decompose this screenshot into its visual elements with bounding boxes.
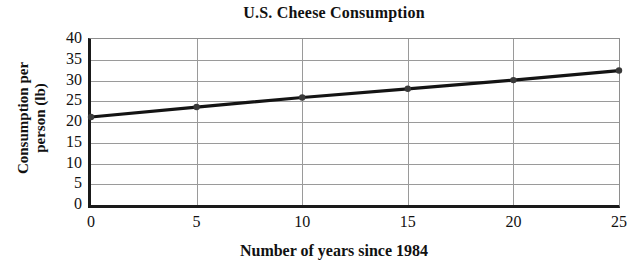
data-point-marker [510, 77, 516, 83]
data-point-marker [193, 104, 199, 110]
x-axis-title: Number of years since 1984 [0, 242, 632, 260]
data-point-marker [299, 94, 305, 100]
y-axis-title-line2: person (lb) [32, 62, 49, 174]
data-point-marker [616, 67, 622, 73]
data-point-marker [88, 114, 94, 120]
x-axis-tick-label: 0 [71, 213, 111, 231]
y-axis-tick-label: 30 [54, 71, 82, 89]
x-axis-tick-label: 20 [493, 213, 533, 231]
y-axis-tick-label: 35 [54, 50, 82, 68]
y-axis-tick-label: 15 [54, 133, 82, 151]
y-axis-tick-label: 0 [54, 195, 82, 213]
series-line [91, 71, 619, 117]
y-axis-tick-label: 20 [54, 112, 82, 130]
y-axis-title-line1: Consumption per [15, 62, 32, 174]
x-axis-tick-label: 15 [388, 213, 428, 231]
data-point-marker [405, 86, 411, 92]
x-axis-tick-label: 10 [282, 213, 322, 231]
chart-figure: U.S. Cheese Consumption Consumption per … [0, 0, 632, 270]
x-axis-tick-label: 25 [599, 213, 632, 231]
line-series [91, 39, 620, 206]
y-axis-tick-label: 25 [54, 91, 82, 109]
x-axis-tick-label: 5 [177, 213, 217, 231]
plot-area [88, 38, 620, 208]
y-axis-tick-label: 40 [54, 29, 82, 47]
y-axis-tick-label: 5 [54, 174, 82, 192]
chart-title: U.S. Cheese Consumption [0, 4, 632, 22]
y-axis-tick-label: 10 [54, 154, 82, 172]
